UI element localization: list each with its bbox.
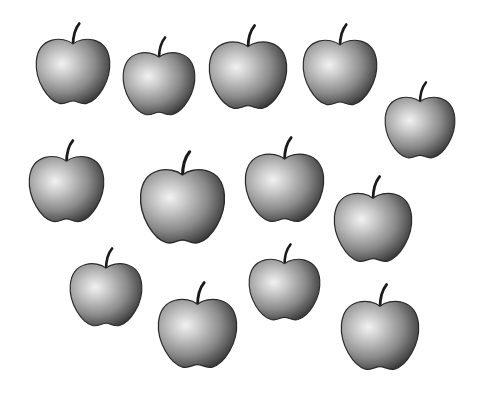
apple: [243, 136, 326, 226]
apple: [34, 22, 112, 108]
apple: [156, 281, 239, 372]
apple: [339, 283, 421, 374]
apple: [27, 139, 106, 226]
apple-body: [303, 40, 377, 104]
apple: [138, 150, 227, 248]
apple: [207, 24, 289, 113]
apple: [383, 81, 457, 162]
apple: [332, 175, 414, 266]
apple-body: [70, 264, 142, 326]
apple: [301, 23, 379, 109]
apple-body: [209, 42, 286, 109]
apple: [68, 247, 144, 330]
apple-body: [29, 156, 104, 221]
apple-body: [141, 170, 225, 243]
apple: [121, 36, 197, 119]
apple-body: [249, 259, 320, 320]
apple-body: [341, 301, 418, 369]
apple-body: [123, 53, 195, 115]
apple-body: [158, 299, 236, 367]
apple-body: [245, 154, 323, 221]
apple: [247, 243, 322, 324]
apple-body: [36, 39, 110, 103]
apple-body: [385, 97, 455, 158]
apple-body: [334, 193, 411, 261]
